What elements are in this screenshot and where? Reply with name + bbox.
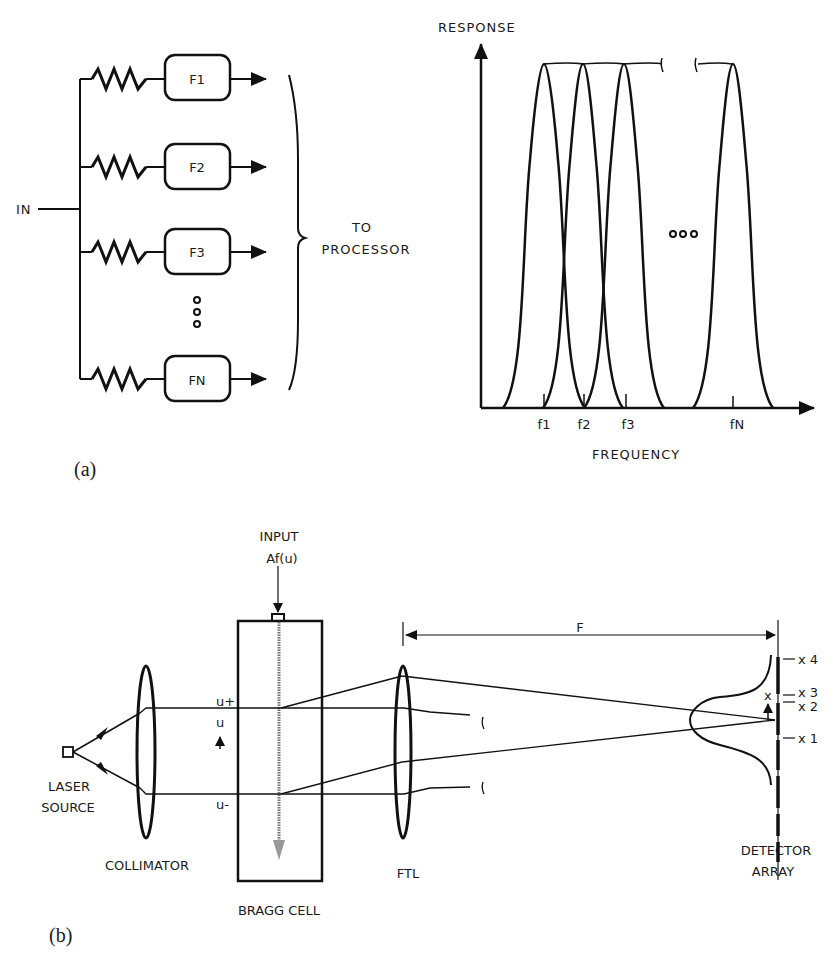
detector-element-x2: x 2 — [798, 699, 818, 714]
u-axis-label: u — [216, 715, 224, 730]
resistor-icon — [92, 369, 146, 389]
tick-label-f1: f1 — [538, 417, 551, 432]
output-label-line1: TO — [351, 220, 372, 235]
detector-label-line1: DETECTOR — [741, 843, 812, 858]
response-curve-f3 — [584, 64, 664, 408]
diffracted-beam-lower — [281, 762, 402, 794]
laser-label-line1: LASER — [48, 779, 90, 794]
peak-level-line — [544, 63, 662, 64]
y-axis-label: RESPONSE — [438, 20, 516, 35]
laser-source-icon — [63, 747, 73, 757]
acoustic-arrow-icon — [273, 840, 285, 860]
filter-branch-f2: F2 — [80, 144, 266, 189]
filter-label-f1: F1 — [189, 72, 205, 87]
response-curve-f1 — [503, 64, 585, 408]
resistor-icon — [92, 242, 146, 262]
spot-profile-curve — [690, 655, 771, 785]
tick-label-f3: f3 — [622, 417, 635, 432]
figure-canvas: IN F1 F2 F3 — [0, 0, 837, 966]
focal-length-label: F — [576, 620, 583, 635]
detector-element-x3: x 3 — [798, 685, 818, 700]
collimator-lens — [137, 666, 155, 838]
response-curve-fn — [693, 64, 773, 408]
detector-label-line2: ARRAY — [752, 864, 794, 879]
output-label-line2: PROCESSOR — [321, 242, 410, 257]
response-plot: RESPONSE f1 f2 f3 fN FREQUENCY — [438, 20, 814, 462]
horizontal-ellipsis-icon — [670, 231, 697, 237]
detector-element-x4: x 4 — [798, 652, 818, 667]
filter-label-fn: FN — [188, 373, 205, 388]
beam-u-plus — [140, 708, 470, 715]
fourier-transform-lens — [395, 666, 411, 838]
filter-label-f3: F3 — [189, 245, 205, 260]
vertical-ellipsis-icon — [194, 297, 200, 327]
beam-upper — [73, 713, 140, 752]
laser-label-line2: SOURCE — [41, 800, 95, 815]
diffracted-beam-upper — [281, 676, 402, 708]
resistor-icon — [92, 69, 146, 89]
filter-branch-f1: F1 — [80, 55, 266, 100]
tick-label-fn: fN — [730, 417, 744, 432]
input-label: IN — [16, 202, 32, 217]
ftl-label: FTL — [397, 866, 420, 881]
filter-bank-diagram: IN F1 F2 F3 — [16, 55, 411, 481]
resistor-icon — [92, 157, 146, 177]
x-axis-label: FREQUENCY — [592, 447, 680, 462]
collimator-label: COLLIMATOR — [105, 858, 189, 873]
filter-branch-fn: FN — [80, 356, 266, 401]
tick-label-f2: f2 — [578, 417, 591, 432]
beam-arrow-icon — [96, 762, 108, 775]
caption-b: (b) — [49, 924, 72, 947]
caption-a: (a) — [74, 458, 96, 481]
input-label-line1: INPUT — [260, 529, 299, 544]
spectrum-analyzer-diagram: INPUT Af(u) LASER SOURCE COLLIMATOR u+ u… — [41, 529, 818, 947]
x-axis-label: x — [764, 688, 772, 703]
input-label-line2: Af(u) — [266, 551, 297, 566]
filter-label-f2: F2 — [189, 160, 205, 175]
u-plus-label: u+ — [216, 694, 235, 709]
bragg-cell-label: BRAGG CELL — [238, 903, 321, 918]
u-minus-label: u- — [216, 797, 229, 812]
brace-icon — [289, 75, 305, 390]
detector-element-x1: x 1 — [798, 731, 818, 746]
filter-branch-f3: F3 — [80, 229, 266, 274]
